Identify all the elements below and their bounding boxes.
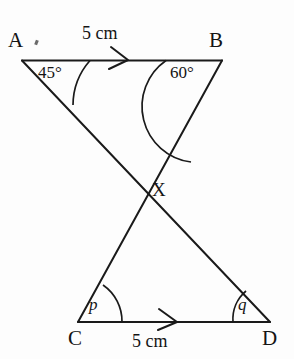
vertex-label-a: A bbox=[8, 30, 23, 51]
length-label-ab: 5 cm bbox=[82, 24, 118, 42]
vertex-label-d: D bbox=[262, 328, 277, 349]
vertex-label-c: C bbox=[68, 328, 82, 349]
angle-label-60: 60° bbox=[170, 64, 194, 81]
intersection-label-x: X bbox=[152, 180, 166, 199]
length-label-cd: 5 cm bbox=[132, 332, 168, 350]
angle-arc-at-a bbox=[73, 61, 90, 106]
arrow-marker-cd-icon bbox=[158, 309, 177, 330]
arrow-marker-ab-icon bbox=[109, 47, 128, 69]
angle-arc-at-c bbox=[103, 285, 122, 322]
angle-label-p: p bbox=[89, 296, 98, 313]
segment-bc-line bbox=[78, 61, 222, 323]
geometry-canvas bbox=[0, 0, 294, 359]
angle-label-q: q bbox=[238, 296, 247, 313]
vertex-label-b: B bbox=[209, 30, 223, 51]
segment-ad-line bbox=[22, 61, 270, 323]
angle-label-45: 45° bbox=[38, 64, 62, 81]
geometry-figure: A B C D X 45° 60° p q 5 cm 5 cm bbox=[0, 0, 294, 359]
